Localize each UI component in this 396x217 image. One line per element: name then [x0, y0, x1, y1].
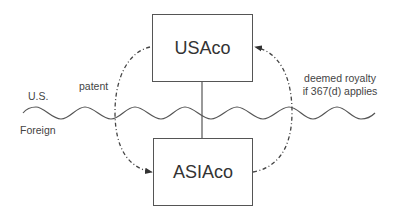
asiaco-entity-box: ASIAco	[153, 138, 253, 206]
usaco-entity-box: USAco	[152, 14, 253, 82]
us-region-label: U.S.	[28, 90, 48, 103]
royalty-flow-arrow	[253, 47, 292, 172]
asiaco-label: ASIAco	[173, 162, 233, 183]
foreign-region-label: Foreign	[20, 124, 56, 137]
patent-flow-label: patent	[79, 80, 108, 93]
usaco-label: USAco	[174, 38, 230, 59]
royalty-label-line1: deemed royalty	[300, 72, 380, 85]
royalty-flow-label: deemed royalty if 367(d) applies	[300, 72, 380, 98]
ownership-diagram: USAco ASIAco U.S. Foreign patent deemed …	[0, 0, 396, 217]
border-wave-line	[23, 107, 375, 119]
patent-flow-arrow	[115, 47, 152, 172]
royalty-label-line2: if 367(d) applies	[300, 85, 380, 98]
